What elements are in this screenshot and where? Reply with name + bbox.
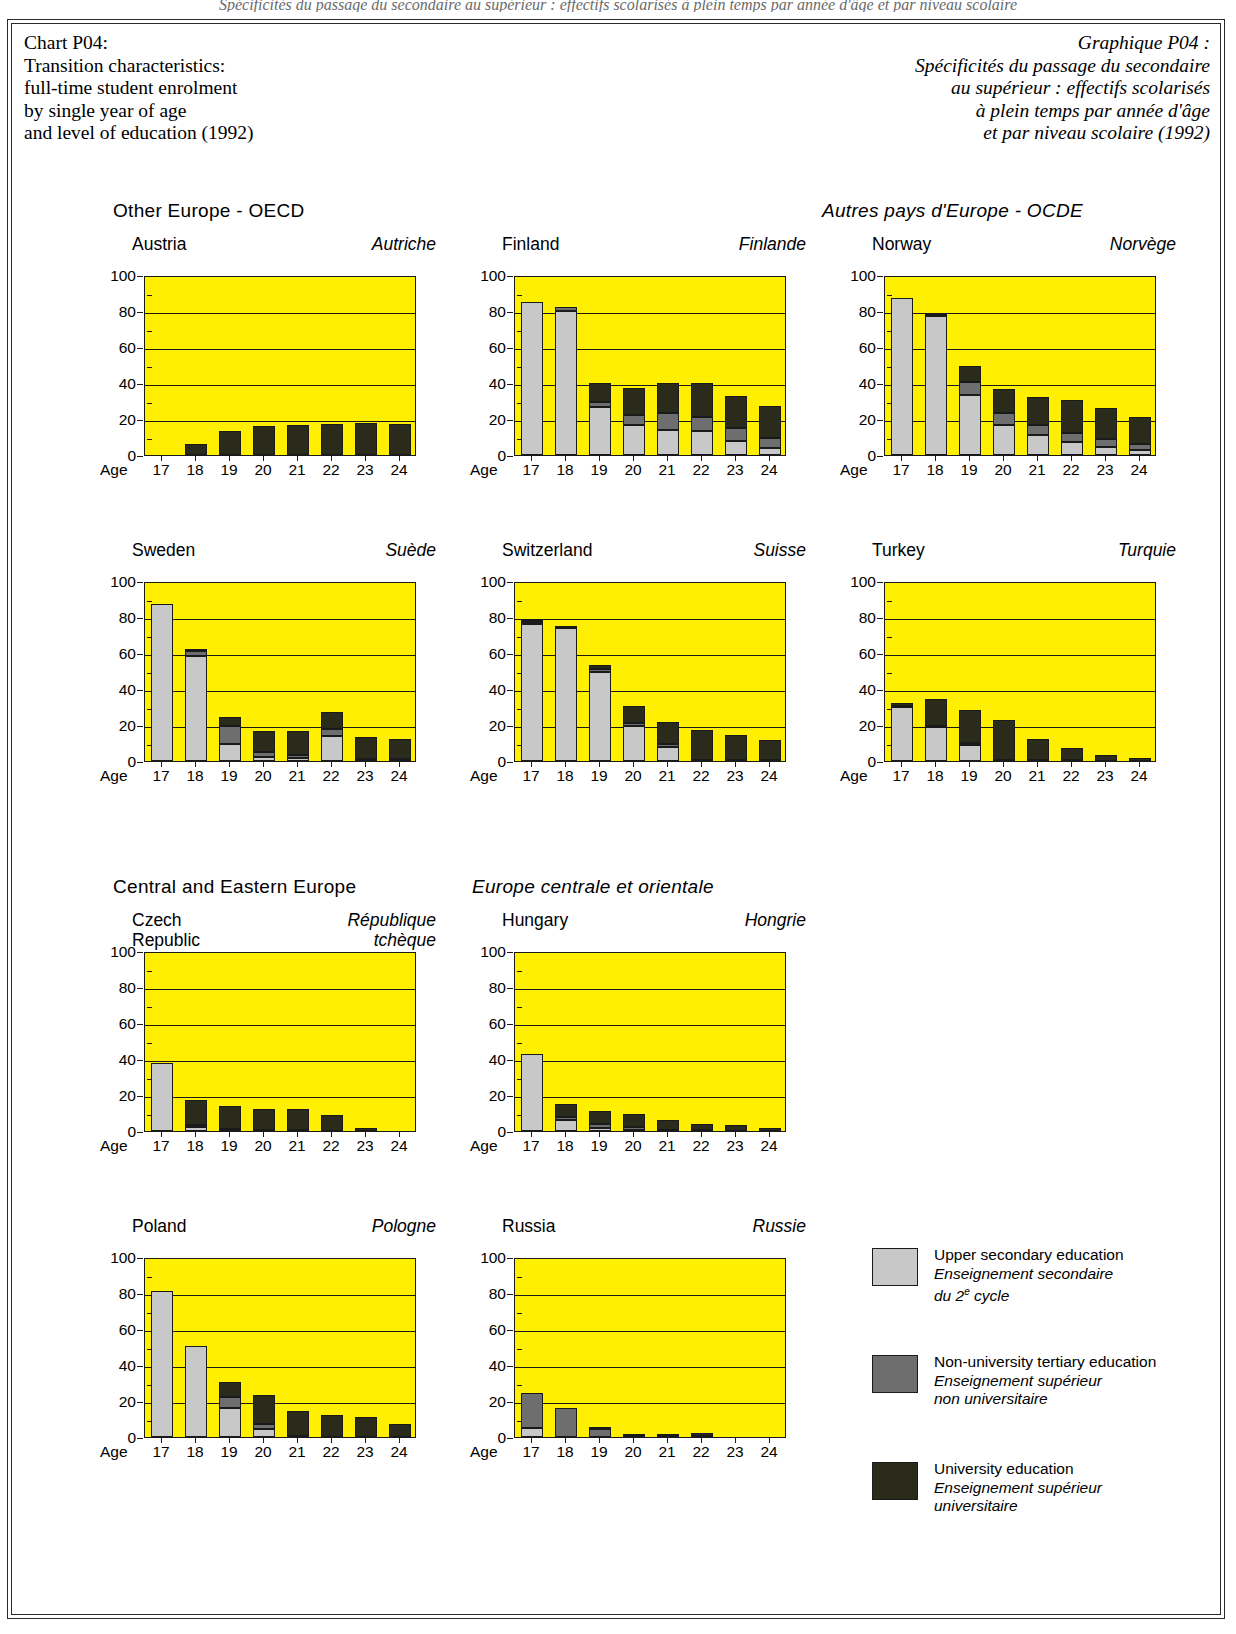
- bar-age-22: [691, 383, 713, 455]
- y-tick-mark: [137, 618, 143, 619]
- gridline: [515, 1097, 785, 1098]
- x-axis-label-23: 23: [1088, 462, 1122, 478]
- plot-area: 020406080100Age1718192021222324: [840, 276, 1176, 492]
- gridline: [145, 385, 415, 386]
- x-tick-mark: [531, 1438, 532, 1443]
- bar-segment-university: [589, 1111, 611, 1124]
- y-axis-label-80: 80: [840, 304, 876, 320]
- bar-segment-university: [759, 1128, 781, 1131]
- x-tick-mark: [195, 1132, 196, 1137]
- band-heading-other-europe-en: Other Europe - OECD: [113, 200, 305, 222]
- bar-segment-non-university: [691, 417, 713, 431]
- plot-area: 020406080100Age1718192021222324: [470, 582, 806, 798]
- bar-age-20: [623, 1434, 645, 1437]
- gridline: [515, 619, 785, 620]
- y-minor-tick: [517, 1349, 522, 1350]
- bar-segment-university: [355, 1417, 377, 1437]
- bar-segment-upper-secondary: [219, 744, 241, 761]
- bar-segment-upper-secondary: [891, 707, 913, 761]
- bar-age-20: [623, 1114, 645, 1131]
- bar-segment-university: [589, 665, 611, 670]
- bar-segment-non-university: [253, 1424, 275, 1429]
- x-axis-caption: Age: [100, 1444, 128, 1460]
- x-axis-label-22: 22: [1054, 462, 1088, 478]
- title-line: full-time student enrolment: [24, 77, 584, 100]
- y-minor-tick: [147, 367, 152, 368]
- x-tick-mark: [331, 1132, 332, 1137]
- x-tick-mark: [365, 456, 366, 461]
- x-axis-label-22: 22: [684, 768, 718, 784]
- x-tick-mark: [735, 1132, 736, 1137]
- bar-age-24: [389, 739, 411, 762]
- panel-finland: FinlandFinlande020406080100Age1718192021…: [470, 234, 806, 492]
- bar-segment-non-university: [555, 1408, 577, 1437]
- y-tick-mark: [507, 276, 513, 277]
- gridline: [885, 655, 1155, 656]
- y-axis-label-100: 100: [100, 574, 136, 590]
- y-tick-mark: [507, 1096, 513, 1097]
- x-axis-label-18: 18: [178, 768, 212, 784]
- legend-label-fr2: universitaire: [934, 1497, 1202, 1516]
- y-axis-label-60: 60: [470, 340, 506, 356]
- y-tick-mark: [507, 726, 513, 727]
- y-axis-label-80: 80: [100, 610, 136, 626]
- y-axis-label-60: 60: [100, 340, 136, 356]
- title-line: Chart P04:: [24, 32, 584, 55]
- x-axis-label-18: 18: [548, 1444, 582, 1460]
- x-axis-caption: Age: [100, 462, 128, 478]
- bar-segment-non-university: [521, 622, 543, 625]
- x-axis-label-17: 17: [144, 462, 178, 478]
- panel-title-en: CzechRepublic: [132, 910, 200, 950]
- panel-title-fr: Suède: [385, 540, 436, 560]
- panel-title-en: Switzerland: [502, 540, 592, 560]
- gridline: [145, 313, 415, 314]
- bar-segment-university: [389, 424, 411, 455]
- bar-age-18: [925, 699, 947, 761]
- x-axis-label-24: 24: [382, 768, 416, 784]
- y-axis-label-20: 20: [100, 1088, 136, 1104]
- x-axis-label-20: 20: [246, 1444, 280, 1460]
- y-minor-tick: [147, 1007, 152, 1008]
- bar-segment-non-university: [1129, 444, 1151, 449]
- gridline: [885, 619, 1155, 620]
- y-tick-mark: [137, 1258, 143, 1259]
- x-tick-mark: [531, 762, 532, 767]
- y-tick-mark: [877, 654, 883, 655]
- bar-age-20: [623, 388, 645, 455]
- y-tick-mark: [137, 420, 143, 421]
- bar-segment-upper-secondary: [925, 316, 947, 455]
- bar-segment-non-university: [623, 415, 645, 426]
- x-tick-mark: [667, 1438, 668, 1443]
- x-axis-label-21: 21: [280, 1138, 314, 1154]
- x-tick-mark: [161, 456, 162, 461]
- axis-area: [514, 276, 786, 456]
- bar-segment-university: [185, 649, 207, 651]
- panel-norway: NorwayNorvège020406080100Age171819202122…: [840, 234, 1176, 492]
- bar-segment-university: [355, 423, 377, 455]
- bar-segment-university: [657, 1434, 679, 1436]
- bar-segment-university: [219, 717, 241, 726]
- y-axis-label-40: 40: [470, 1358, 506, 1374]
- y-tick-mark: [137, 1060, 143, 1061]
- bar-segment-upper-secondary: [891, 298, 913, 455]
- panel-poland: PolandPologne020406080100Age171819202122…: [100, 1216, 436, 1474]
- y-axis-label-60: 60: [100, 1322, 136, 1338]
- bar-segment-upper-secondary: [151, 604, 173, 761]
- plot-area: 020406080100Age1718192021222324: [100, 582, 436, 798]
- panel-russia: RussiaRussie020406080100Age1718192021222…: [470, 1216, 806, 1474]
- gridline: [145, 1025, 415, 1026]
- bar-age-19: [589, 1428, 611, 1437]
- bar-age-21: [657, 1120, 679, 1131]
- bar-segment-university: [725, 1125, 747, 1131]
- legend-label-fr2: non universitaire: [934, 1390, 1202, 1409]
- y-axis-label-100: 100: [840, 574, 876, 590]
- x-axis-label-24: 24: [752, 768, 786, 784]
- bar-segment-upper-secondary: [1061, 442, 1083, 456]
- bar-segment-non-university: [287, 755, 309, 759]
- x-tick-mark: [565, 1132, 566, 1137]
- y-axis-label-80: 80: [840, 610, 876, 626]
- x-tick-mark: [161, 1132, 162, 1137]
- bar-age-23: [725, 396, 747, 455]
- y-minor-tick: [887, 673, 892, 674]
- x-axis-label-20: 20: [616, 462, 650, 478]
